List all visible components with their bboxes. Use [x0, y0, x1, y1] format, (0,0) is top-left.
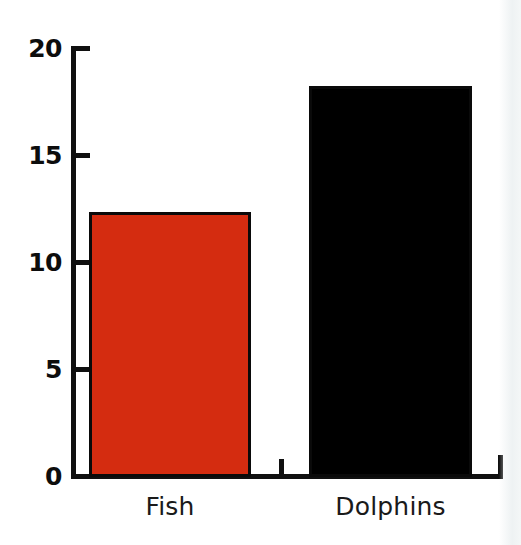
- y-tick-15: [76, 153, 90, 158]
- bar-dolphins[interactable]: [309, 86, 472, 477]
- x-tick-mid: [279, 459, 284, 475]
- y-tick-label-0: 0: [0, 462, 62, 491]
- y-tick-label-15: 15: [0, 141, 62, 170]
- bar-chart: 20 15 10 5 0 Fish Dolphins: [0, 0, 521, 545]
- y-tick-label-15-wrap: 15: [0, 141, 62, 167]
- bar-fish[interactable]: [89, 212, 251, 477]
- y-tick-label-5: 5: [0, 355, 62, 384]
- y-tick-10: [76, 260, 90, 265]
- x-tick-end: [498, 455, 503, 479]
- x-label-fish: Fish: [89, 492, 251, 521]
- y-tick-label-20: 20: [0, 34, 62, 63]
- y-tick-20: [76, 46, 90, 51]
- x-label-dolphins: Dolphins: [309, 492, 472, 521]
- y-tick-label-0-wrap: 0: [0, 462, 62, 488]
- y-tick-label-5-wrap: 5: [0, 355, 62, 381]
- y-tick-label-20-wrap: 20: [0, 34, 62, 60]
- y-tick-label-10-wrap: 10: [0, 248, 62, 274]
- y-tick-label-10: 10: [0, 248, 62, 277]
- y-tick-5: [76, 367, 90, 372]
